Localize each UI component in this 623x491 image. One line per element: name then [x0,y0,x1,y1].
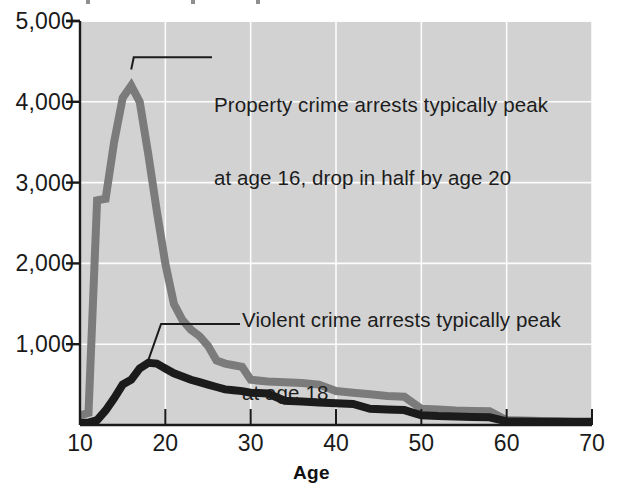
x-tick-label-70: 70 [567,432,617,455]
annotation-violent-line1: Violent crime arrests typically peak [242,308,561,332]
x-tick-label-10: 10 [55,432,105,455]
x-axis-title: Age [0,462,623,484]
annotation-property-line1: Property crime arrests typically peak [214,93,548,117]
annotation-violent-crime: Violent crime arrests typically peak at … [242,260,561,454]
chart-figure: 1,0002,0003,0004,0005,000 10203040506070… [0,0,623,491]
x-tick-label-20: 20 [140,432,190,455]
annotation-violent-line2: at age 18 [242,381,561,405]
annotation-property-line2: at age 16, drop in half by age 20 [214,166,548,190]
annotation-property-crime: Property crime arrests typically peak at… [214,45,548,239]
